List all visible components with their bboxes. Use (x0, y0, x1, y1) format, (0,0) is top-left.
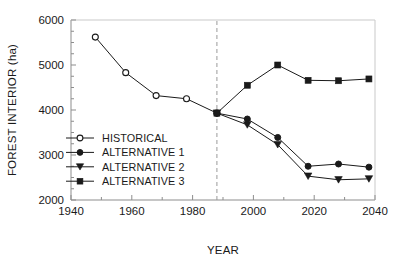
data-point (214, 110, 220, 116)
legend-label: ALTERNATIVE 3 (102, 175, 185, 187)
series-line (217, 113, 369, 167)
x-axis-title: YEAR (207, 244, 239, 256)
data-point (366, 76, 372, 82)
data-point (244, 82, 250, 88)
series-line (95, 37, 217, 113)
x-tick-label: 2020 (301, 205, 327, 217)
series-4 (214, 62, 372, 116)
data-point (275, 134, 281, 140)
series-2 (214, 110, 372, 170)
series-line (217, 113, 369, 180)
legend-label: HISTORICAL (102, 132, 168, 144)
chart-figure: 1940196019802000202020402000300040005000… (0, 0, 398, 262)
x-tick-label: 2000 (241, 205, 267, 217)
x-tick-label: 1980 (180, 205, 206, 217)
data-point (153, 93, 159, 99)
data-point (92, 34, 98, 40)
data-point (336, 161, 342, 167)
data-point (77, 150, 83, 156)
forest-interior-line-chart: 1940196019802000202020402000300040005000… (0, 0, 398, 262)
x-tick-label: 2040 (362, 205, 388, 217)
legend-item-2: ALTERNATIVE 1 (66, 146, 185, 158)
data-point (305, 77, 311, 83)
data-point (77, 135, 83, 141)
data-point (366, 164, 372, 170)
y-tick-label: 5000 (38, 59, 64, 71)
data-point (336, 78, 342, 84)
y-tick-label: 3000 (38, 149, 64, 161)
legend-label: ALTERNATIVE 2 (102, 161, 185, 173)
x-tick-label: 1960 (119, 205, 145, 217)
data-point (244, 122, 252, 129)
legend-label: ALTERNATIVE 1 (102, 146, 185, 158)
data-point (184, 96, 190, 102)
axes-layer: 1940196019802000202020402000300040005000… (38, 14, 387, 217)
y-tick-label: 6000 (38, 14, 64, 26)
y-axis-title: FOREST INTERIOR (ha) (6, 44, 18, 176)
x-tick-label: 1940 (58, 205, 84, 217)
y-tick-label: 2000 (38, 194, 64, 206)
series-3 (213, 110, 373, 183)
y-tick-label: 4000 (38, 104, 64, 116)
data-point (305, 163, 311, 169)
series-line (217, 65, 369, 113)
data-point (123, 70, 129, 76)
legend-item-4: ALTERNATIVE 3 (66, 175, 185, 187)
data-point (275, 62, 281, 68)
data-point (244, 116, 250, 122)
legend-item-1: HISTORICAL (66, 132, 168, 144)
series-1 (92, 34, 220, 116)
legend-item-3: ALTERNATIVE 2 (66, 161, 185, 173)
data-point (77, 178, 83, 184)
legend-layer: HISTORICALALTERNATIVE 1ALTERNATIVE 2ALTE… (66, 132, 185, 187)
